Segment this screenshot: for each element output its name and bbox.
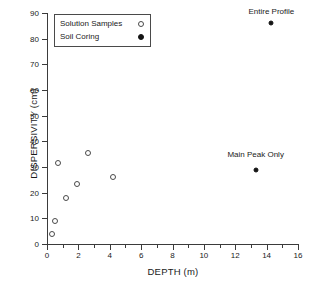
x-tick — [141, 245, 142, 250]
x-tick-label: 12 — [231, 251, 240, 260]
x-tick-minor — [157, 245, 158, 248]
x-tick-label: 10 — [199, 251, 208, 260]
x-tick-label: 14 — [262, 251, 271, 260]
legend: Solution Samples Soil Coring — [54, 14, 151, 47]
x-tick — [173, 245, 174, 250]
y-tick-label: 90 — [30, 9, 39, 18]
x-tick — [78, 245, 79, 250]
data-point — [49, 231, 55, 237]
x-tick-minor — [94, 245, 95, 248]
x-tick — [235, 245, 236, 250]
y-tick-label: 10 — [30, 214, 39, 223]
point-annotation: Entire Profile — [248, 7, 294, 16]
x-tick-minor — [251, 245, 252, 248]
x-tick-label: 8 — [170, 251, 174, 260]
data-point — [85, 150, 91, 156]
y-axis-title: DISPERSIVITY (cm) — [28, 54, 39, 214]
open-circle-icon — [138, 21, 144, 27]
x-tick — [204, 245, 205, 250]
scatter-chart: 0102030405060708090 0246810121416 DISPER… — [0, 0, 310, 290]
x-tick-label: 4 — [108, 251, 112, 260]
x-tick — [110, 245, 111, 250]
data-point — [110, 174, 116, 180]
x-tick-minor — [188, 245, 189, 248]
data-point — [52, 218, 58, 224]
x-tick-minor — [220, 245, 221, 248]
x-tick — [298, 245, 299, 250]
legend-label: Solution Samples — [60, 19, 122, 28]
data-point — [63, 195, 69, 201]
data-point — [269, 21, 274, 26]
x-tick-label: 6 — [139, 251, 143, 260]
data-point — [253, 167, 258, 172]
x-tick — [267, 245, 268, 250]
filled-circle-icon — [138, 34, 144, 40]
x-tick-label: 16 — [294, 251, 303, 260]
x-tick-minor — [125, 245, 126, 248]
legend-entry-solution-samples: Solution Samples — [60, 17, 145, 31]
legend-entry-soil-coring: Soil Coring — [60, 30, 145, 44]
y-tick-label: 80 — [30, 34, 39, 43]
data-point — [74, 181, 80, 187]
data-point — [55, 160, 61, 166]
y-tick-label: 0 — [35, 240, 39, 249]
x-axis-title: DEPTH (m) — [47, 266, 299, 277]
x-tick — [47, 245, 48, 250]
plot-area — [47, 13, 298, 244]
x-tick-minor — [63, 245, 64, 248]
x-tick-label: 2 — [76, 251, 80, 260]
x-tick-minor — [282, 245, 283, 248]
legend-label: Soil Coring — [60, 32, 99, 41]
point-annotation: Main Peak Only — [227, 150, 283, 159]
x-tick-label: 0 — [45, 251, 49, 260]
